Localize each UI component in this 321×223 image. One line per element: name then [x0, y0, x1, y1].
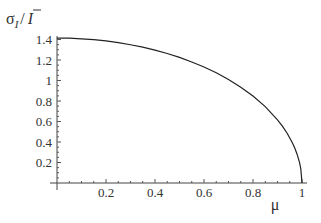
chart: σI/I 0.20.40.60.811.21.4 0.20.40.60.81 μ: [0, 0, 321, 223]
x-tick-label: 0.6: [196, 185, 213, 200]
x-tick-label: 0.2: [98, 185, 114, 200]
y-axis-title: σI/I: [6, 10, 41, 30]
svg-text:σI/I: σI/I: [6, 10, 34, 30]
data-curve: [57, 38, 302, 183]
y-tick-label: 0.4: [36, 135, 53, 150]
y-tick-label: 0.6: [36, 114, 53, 129]
y-axis-title-ibar: I: [27, 10, 34, 27]
y-tick-label: 1.2: [36, 53, 52, 68]
y-tick-label: 1: [46, 73, 53, 88]
x-tick-label: 0.8: [245, 185, 261, 200]
x-axis-title: μ: [271, 196, 280, 214]
y-tick-label: 0.2: [36, 155, 52, 170]
y-tick-label: 0.8: [36, 94, 52, 109]
y-tick-label: 1.4: [36, 32, 53, 47]
x-tick-label: 1: [299, 185, 306, 200]
y-axis-title-slash: /: [20, 10, 25, 27]
y-axis-title-subscript: I: [14, 18, 20, 30]
x-tick-label: 0.4: [147, 185, 164, 200]
